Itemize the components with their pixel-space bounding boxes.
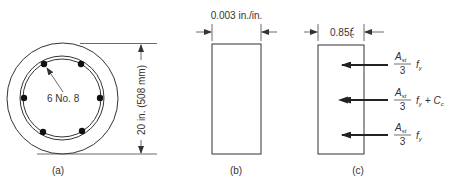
rebar-dot: [40, 129, 46, 135]
svg-text:fy+ Cc: fy+ Cc: [416, 95, 444, 107]
panel-b-label: (b): [230, 165, 242, 176]
rebar-dot: [41, 61, 47, 67]
svg-text:3: 3: [400, 65, 406, 76]
panel-a-label: (a): [52, 165, 64, 176]
diameter-dimension-label: 20 in. (508 mm): [136, 65, 147, 135]
force-label-top: Ast 3 fy: [394, 51, 423, 76]
panel-c-force-diagram: 0.85f′c Ast 3 fy Ast 3 fy+ Cc Ast 3 fy (…: [304, 24, 444, 176]
panel-c-label: (c): [352, 165, 364, 176]
rebar-dot: [78, 61, 84, 67]
strain-rectangle: [212, 44, 261, 154]
svg-text:fy: fy: [416, 130, 423, 142]
force-label-middle: Ast 3 fy+ Cc: [394, 87, 444, 112]
force-arrow-middle-second-head: [338, 97, 348, 104]
rebar-dot: [97, 95, 103, 101]
bar-note-label: 6 No. 8: [47, 93, 80, 104]
strain-value-label: 0.003 in./in.: [211, 10, 263, 21]
svg-text:fy: fy: [416, 59, 423, 71]
svg-text:3: 3: [400, 136, 406, 147]
svg-text:Ast: Ast: [394, 87, 407, 99]
figure-canvas: 6 No. 8 20 in. (508 mm) (a) 0.003 in./in…: [0, 0, 455, 186]
rebar-dot: [79, 128, 85, 134]
stress-value-label: 0.85f′c: [330, 25, 355, 39]
force-label-bottom: Ast 3 fy: [394, 122, 423, 147]
svg-text:Ast: Ast: [394, 51, 407, 63]
panel-b-strain-diagram: 0.003 in./in. (b): [196, 10, 277, 176]
rebar-dot: [21, 95, 27, 101]
panel-a-column-section: 6 No. 8 20 in. (508 mm) (a): [7, 43, 157, 176]
svg-text:3: 3: [400, 101, 406, 112]
bar-leader-arrow: [47, 68, 63, 92]
svg-text:Ast: Ast: [394, 122, 407, 134]
